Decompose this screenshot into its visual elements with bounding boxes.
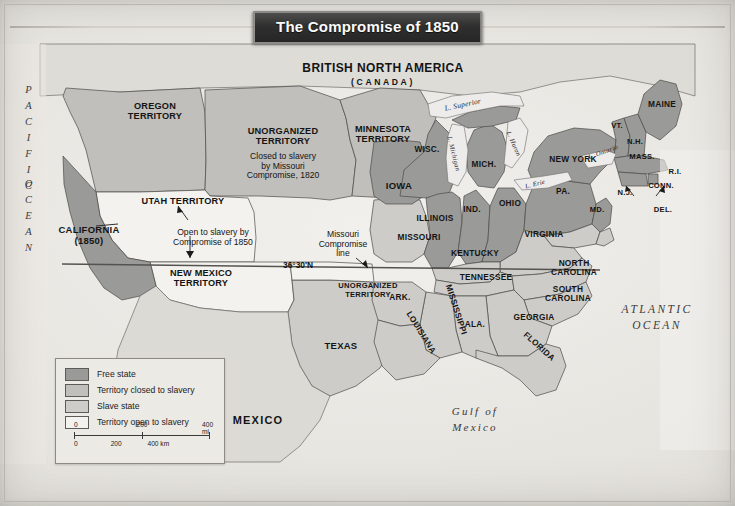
page-frame (4, 4, 731, 502)
map-screenshot: The Compromise of 1850 BRITISH NORTH AME… (0, 0, 735, 506)
